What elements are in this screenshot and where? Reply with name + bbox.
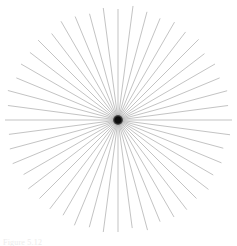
figure-caption: Figure 5.12 xyxy=(3,239,42,246)
starburst-chart xyxy=(0,0,237,246)
figure-container: Figure 5.12 xyxy=(0,0,237,246)
